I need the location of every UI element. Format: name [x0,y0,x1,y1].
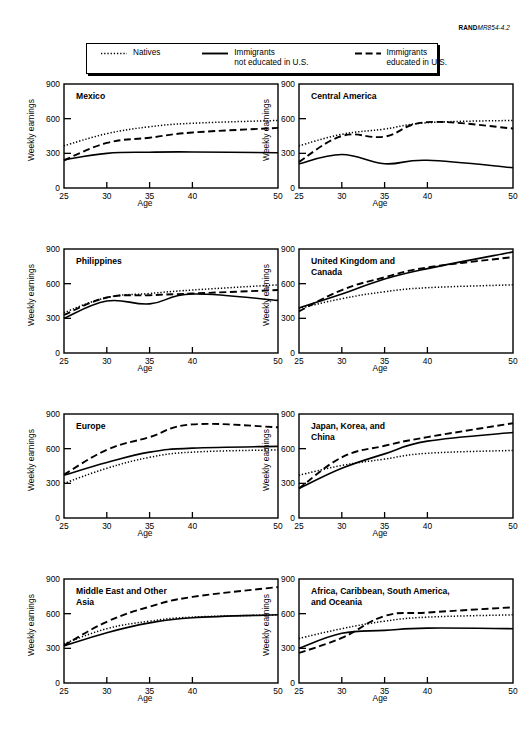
panel-title: and Oceania [311,597,362,607]
panel-title: China [311,432,335,442]
panel-title: United Kingdom and [311,256,395,266]
chart-panel: Weekly earnings03006009002530354050Japan… [257,408,513,542]
plot-area: 03006009002530354050Mexico [38,78,286,204]
panel-row: Weekly earnings03006009002530354050Europ… [0,408,526,573]
x-axis-label: Age [38,528,252,538]
figure-id-prefix: RAND [459,24,478,31]
series-line-solid [64,294,278,318]
y-tick-label: 600 [46,279,60,289]
series-line-dotted [299,285,513,309]
x-axis-label: Age [273,363,487,373]
y-tick-label: 300 [46,148,60,158]
y-tick-label: 600 [281,444,295,454]
y-tick-label: 900 [46,574,60,584]
y-tick-label: 900 [46,79,60,89]
legend-item-label: Natives [133,48,160,58]
chart-panel: Weekly earnings03006009002530354050Phili… [22,243,278,377]
y-tick-label: 900 [281,409,295,419]
figure-identifier: RANDMR854-4.2 [459,24,510,31]
chart-legend: NativesImmigrantsnot educated in U.S.Imm… [86,43,438,74]
x-axis-label: Age [38,363,252,373]
y-axis-label: Weekly earnings [24,78,38,182]
panel-title: Europe [76,421,106,431]
y-tick-label: 900 [46,409,60,419]
y-axis-label: Weekly earnings [259,573,273,677]
dotted-line-swatch [101,51,127,61]
figure-id-number: MR854-4.2 [477,24,510,31]
x-tick-label: 50 [508,521,518,531]
figure-page: RANDMR854-4.2 NativesImmigrantsnot educa… [0,0,526,739]
legend-label-line2: not educated in U.S. [234,58,308,68]
y-axis-label: Weekly earnings [259,78,273,182]
y-tick-label: 900 [281,244,295,254]
legend-item-2: Immigrantseducated in U.S. [355,48,448,69]
series-line-dotted [64,285,278,313]
chart-panel: Weekly earnings03006009002530354050Centr… [257,78,513,212]
series-line-solid [299,154,513,167]
panel-title: Middle East and Other [76,586,167,596]
series-line-dashed [64,290,278,315]
y-tick-label: 600 [46,114,60,124]
x-tick-label: 50 [508,356,518,366]
y-tick-label: 900 [281,574,295,584]
y-axis-label: Weekly earnings [259,243,273,347]
y-tick-label: 600 [46,609,60,619]
y-tick-label: 300 [281,313,295,323]
y-axis-label: Weekly earnings [24,243,38,347]
x-axis-label: Age [273,198,487,208]
series-line-solid [64,615,278,646]
legend-item-1: Immigrantsnot educated in U.S. [202,48,308,69]
plot-area: 03006009002530354050Philippines [38,243,286,369]
panel-row: Weekly earnings03006009002530354050Mexic… [0,78,526,243]
chart-panel: Weekly earnings03006009002530354050Unite… [257,243,513,377]
legend-label-line1: Natives [133,48,160,58]
panel-title: Central America [311,91,377,101]
y-tick-label: 600 [46,444,60,454]
x-tick-label: 50 [508,191,518,201]
panel-title: Philippines [76,256,122,266]
chart-panel: Weekly earnings03006009002530354050Middl… [22,573,278,707]
y-tick-label: 300 [281,478,295,488]
panel-row: Weekly earnings03006009002530354050Phili… [0,243,526,408]
series-line-dashed [64,128,278,160]
chart-panel: Weekly earnings03006009002530354050Mexic… [22,78,278,212]
chart-panel: Weekly earnings03006009002530354050Europ… [22,408,278,542]
y-axis-label: Weekly earnings [24,573,38,677]
y-tick-label: 900 [281,79,295,89]
x-axis-label: Age [273,693,487,703]
series-line-dashed [299,607,513,653]
plot-area: 03006009002530354050United Kingdom andCa… [273,243,521,369]
y-tick-label: 300 [46,313,60,323]
panel-title: Canada [311,267,342,277]
series-line-solid [64,152,278,160]
y-tick-label: 300 [46,478,60,488]
legend-item-0: Natives [101,48,160,61]
panel-title: Japan, Korea, and [311,421,385,431]
panel-grid: Weekly earnings03006009002530354050Mexic… [0,78,526,738]
plot-area: 03006009002530354050Japan, Korea, andChi… [273,408,521,534]
y-axis-label: Weekly earnings [259,408,273,512]
y-tick-label: 600 [281,609,295,619]
series-line-dotted [299,615,513,639]
y-axis-label: Weekly earnings [24,408,38,512]
y-tick-label: 300 [281,148,295,158]
legend-item-label: Immigrantsnot educated in U.S. [234,48,308,69]
plot-area: 03006009002530354050Europe [38,408,286,534]
y-tick-label: 900 [46,244,60,254]
y-tick-label: 300 [281,643,295,653]
plot-area: 03006009002530354050Middle East and Othe… [38,573,286,699]
solid-line-swatch [202,51,228,61]
x-axis-label: Age [38,198,252,208]
plot-area: 03006009002530354050Central America [273,78,521,204]
chart-panel: Weekly earnings03006009002530354050Afric… [257,573,513,707]
panel-row: Weekly earnings03006009002530354050Middl… [0,573,526,738]
legend-item-label: Immigrantseducated in U.S. [387,48,448,69]
panel-title: Africa, Caribbean, South America, [311,586,450,596]
dashed-line-swatch [355,51,381,61]
legend-label-line2: educated in U.S. [387,58,448,68]
x-tick-label: 50 [508,686,518,696]
x-axis-label: Age [273,528,487,538]
y-tick-label: 600 [281,279,295,289]
series-line-dotted [299,450,513,475]
x-axis-label: Age [38,693,252,703]
